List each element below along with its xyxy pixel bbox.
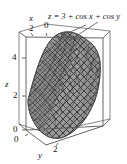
equation-text: z = 3 + cos x + cos y [48,11,120,21]
x-tick-2: 2 [29,24,34,33]
equation-label: z = 3 + cos x + cos y [48,12,120,21]
x-axis-label: x [29,14,33,23]
z-tick-2: 2 [13,91,18,100]
y-tick-2: 2 [53,145,58,154]
plot-canvas [0,0,127,164]
z-axis-ticks [22,58,26,130]
z-tick-4: 4 [12,53,17,62]
y-axis-label: y [38,151,42,160]
surface-mesh [26,30,106,142]
z-axis-label: z [5,80,9,89]
x-axis-ticks [31,33,47,36]
surface-plot-figure: z = 3 + cos x + cos y x 2 0 4 z 2 0 0 2 … [0,0,127,164]
y-tick-0: 0 [14,135,19,144]
x-tick-0: 0 [44,21,49,30]
z-tick-0: 0 [13,125,18,134]
